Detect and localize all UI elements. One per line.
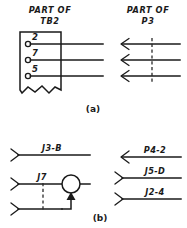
terminal-label-2: 2 [32, 32, 38, 42]
device-circle-symbol[interactable] [62, 175, 80, 193]
part-of-tb2-title: PART OF [29, 5, 72, 15]
part-of-tb2-subtitle: TB2 [40, 16, 59, 26]
figure-a-label: (a) [86, 104, 100, 114]
terminal-label-5: 5 [32, 64, 38, 74]
wiring-diagram-svg: PART OF TB2 PART OF P3 2 7 5 (a) [0, 0, 187, 228]
figure-b-label: (b) [93, 213, 108, 223]
wire-label-p4-2: P4-2 [144, 145, 166, 155]
wire-label-j2-4: J2-4 [143, 187, 164, 197]
wiring-diagram-root: PART OF TB2 PART OF P3 2 7 5 (a) [0, 0, 187, 228]
wire-label-j5-d: J5-D [143, 166, 166, 176]
part-of-p3-subtitle: P3 [142, 16, 155, 26]
wire-label-j3b: J3-B [40, 143, 62, 153]
terminal-label-7: 7 [32, 48, 38, 58]
part-of-p3-title: PART OF [127, 5, 170, 15]
wire-label-j7: J7 [35, 172, 47, 182]
